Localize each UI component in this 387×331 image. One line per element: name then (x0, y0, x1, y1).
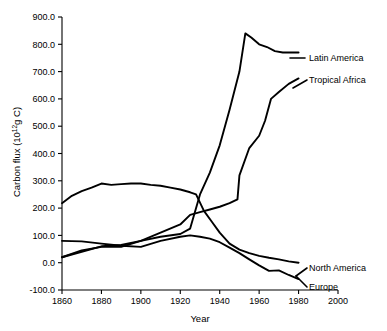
series-label-latin-america: Latin America (309, 53, 364, 63)
y-tick-label-900: 900.0 (32, 12, 55, 22)
y-tick-label-800: 800.0 (32, 40, 55, 50)
series-label-tropical-africa: Tropical Africa (309, 75, 366, 85)
x-tick-label-1960: 1960 (249, 296, 269, 306)
y-axis-title-prefix: Carbon flux (10 (11, 132, 22, 197)
series-label-europe: Europe (309, 282, 338, 292)
y-tick-label-500: 500.0 (32, 121, 55, 131)
y-axis-tick-labels: -100.00.0100.0200.0300.0400.0500.0600.07… (29, 12, 55, 295)
x-axis-ticks (62, 290, 338, 294)
y-tick-label-100: 100.0 (32, 231, 55, 241)
y-tick-label-400: 400.0 (32, 149, 55, 159)
y-tick-label-700: 700.0 (32, 67, 55, 77)
x-tick-label-1880: 1880 (91, 296, 111, 306)
y-axis-ticks (58, 17, 62, 290)
x-tick-label-1860: 1860 (52, 296, 72, 306)
data-series-group (62, 33, 299, 279)
y-axis-title-suffix: g C) (11, 107, 22, 125)
series-label-north-america: North America (309, 263, 366, 273)
line-chart-canvas: -100.00.0100.0200.0300.0400.0500.0600.07… (0, 0, 387, 331)
x-tick-label-1920: 1920 (170, 296, 190, 306)
y-tick-label-300: 300.0 (32, 176, 55, 186)
x-tick-label-1940: 1940 (210, 296, 230, 306)
leader-line-europe (296, 276, 307, 287)
x-tick-label-1900: 1900 (131, 296, 151, 306)
leader-line-north-america (296, 268, 307, 276)
y-tick-label-600: 600.0 (32, 94, 55, 104)
y-tick-label-0: 0.0 (42, 258, 55, 268)
svg-text:Carbon flux (1012g C): Carbon flux (1012g C) (11, 107, 23, 197)
y-tick-label-200: 200.0 (32, 203, 55, 213)
series-line-tropical-africa (62, 78, 299, 257)
x-axis-tick-labels: 18601880190019201940196019802000 (52, 296, 348, 306)
x-tick-label-2000: 2000 (328, 296, 348, 306)
x-tick-label-1980: 1980 (289, 296, 309, 306)
x-axis-title: Year (190, 313, 209, 324)
chart-figure: -100.00.0100.0200.0300.0400.0500.0600.07… (0, 0, 387, 331)
series-line-north-america (62, 184, 299, 263)
y-axis-title: Carbon flux (1012g C) (11, 107, 23, 197)
y-tick-label--100: -100.0 (29, 285, 55, 295)
